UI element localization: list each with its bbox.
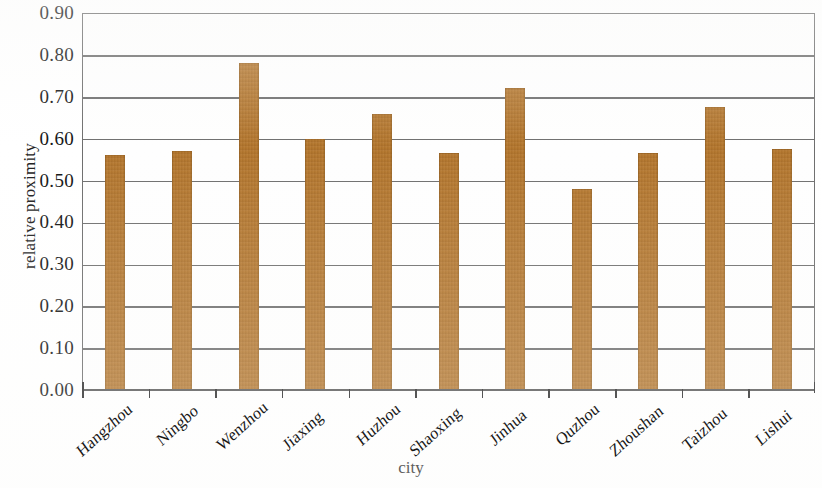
x-axis-line xyxy=(82,389,815,391)
y-axis-tick-label: 0.50 xyxy=(10,170,74,192)
x-axis-tick xyxy=(615,389,617,398)
bar xyxy=(105,155,125,390)
x-axis-tick xyxy=(215,389,217,398)
y-axis-tick-labels: 0.900.800.700.600.500.400.300.200.100.00 xyxy=(6,0,74,488)
bar xyxy=(505,88,525,390)
x-axis-end-cap xyxy=(82,382,84,393)
bar xyxy=(439,153,459,390)
x-axis-tick xyxy=(349,389,351,398)
bar xyxy=(772,149,792,390)
x-axis-tick xyxy=(682,389,684,398)
bar xyxy=(172,151,192,390)
y-axis-tick-label: 0.10 xyxy=(10,337,74,359)
y-axis-tick-label: 0.40 xyxy=(10,211,74,233)
bar xyxy=(572,189,592,390)
y-axis-tick-label: 0.60 xyxy=(10,128,74,150)
x-axis-category-label: Zhoushan xyxy=(605,401,668,460)
y-axis-tick-label: 0.70 xyxy=(10,86,74,108)
y-axis-tick-label: 0.20 xyxy=(10,295,74,317)
x-axis-category-label: Huzhou xyxy=(352,399,405,450)
x-axis-category-label: Wenzhou xyxy=(212,398,272,455)
x-axis-category-label: Lishui xyxy=(751,405,797,449)
x-axis-tick xyxy=(748,389,750,398)
y-axis-tick-label: 0.30 xyxy=(10,253,74,275)
x-axis-tick xyxy=(548,389,550,398)
bar-chart: relative proximity 0.900.800.700.600.500… xyxy=(0,0,822,488)
y-axis-tick-label: 0.00 xyxy=(10,379,74,401)
x-axis-title: city xyxy=(0,458,822,478)
bar xyxy=(705,107,725,390)
x-axis-category-label: Jiaxing xyxy=(278,407,328,455)
bars-layer xyxy=(82,13,815,390)
x-axis-category-label: Shaoxing xyxy=(405,403,466,461)
x-axis-category-label: Jinhua xyxy=(485,405,531,449)
y-axis-tick-label: 0.80 xyxy=(10,44,74,66)
bar xyxy=(239,63,259,390)
x-axis-category-label: Hangzhou xyxy=(72,400,137,461)
x-axis-end-cap xyxy=(814,382,816,393)
x-axis-category-label: Quzhou xyxy=(551,399,604,450)
bar xyxy=(372,114,392,390)
x-axis-tick xyxy=(482,389,484,398)
bar xyxy=(305,139,325,390)
x-axis-category-label: Ningbo xyxy=(152,401,203,450)
x-axis-tick xyxy=(149,389,151,398)
y-axis-tick-label: 0.90 xyxy=(10,2,74,24)
x-axis-tick xyxy=(282,389,284,398)
bar xyxy=(638,153,658,390)
x-axis-tick xyxy=(415,389,417,398)
x-axis-category-label: Taizhou xyxy=(678,404,732,455)
